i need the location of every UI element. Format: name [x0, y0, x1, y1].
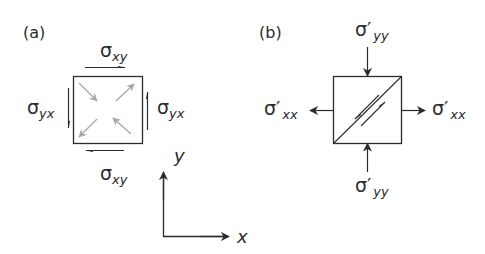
label-sigma-xy-top: σxy — [100, 39, 128, 64]
slip-arrow-lower — [361, 102, 385, 126]
panel-b-label: (b) — [259, 23, 282, 42]
label-sigma-prime-yy-top: σ′yy — [355, 18, 389, 43]
inner-arrow-compression-tl — [79, 83, 97, 101]
inner-arrow-tension-tr — [116, 84, 134, 101]
coordinate-axes: y x — [164, 145, 249, 247]
label-sigma-yx-left: σyx — [27, 96, 55, 121]
panel-a-label: (a) — [23, 23, 45, 42]
label-sigma-prime-xx-right: σ′xx — [432, 97, 466, 122]
slip-plane-diagonal — [334, 77, 402, 144]
inner-arrow-tension-bl — [79, 119, 97, 137]
label-sigma-prime-yy-bottom: σ′yy — [355, 174, 389, 199]
slip-arrow-upper — [355, 95, 379, 119]
x-axis-label: x — [236, 226, 248, 247]
label-sigma-prime-xx-left: σ′xx — [264, 97, 298, 122]
panel-b: (b) σ′yy σ′yy σ′xx σ′xx — [259, 18, 466, 199]
stress-diagram: (a) σxy σxy σyx σyx y x (b) — [0, 0, 485, 254]
y-axis-label: y — [173, 145, 185, 166]
label-sigma-yx-right: σyx — [157, 96, 185, 121]
panel-a: (a) σxy σxy σyx σyx — [23, 23, 185, 187]
inner-arrow-compression-br — [113, 118, 131, 134]
label-sigma-xy-bottom: σxy — [100, 162, 128, 187]
axes-lines — [164, 173, 229, 237]
